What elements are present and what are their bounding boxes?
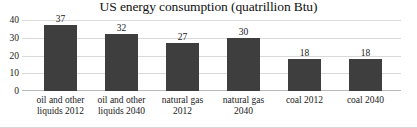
x-axis-category-label: oil and other liquids 2040 xyxy=(91,95,152,117)
bar-value-label: 18 xyxy=(335,48,396,58)
bar-chart: US energy consumption (quatrillion Btu) … xyxy=(0,0,417,128)
bar-group: 32 xyxy=(91,20,152,91)
x-axis-category-label: natural gas 2040 xyxy=(213,95,274,117)
bar[interactable] xyxy=(288,59,321,91)
bar-group: 30 xyxy=(213,20,274,91)
y-axis-tick-label: 30 xyxy=(0,33,19,43)
bar-value-label: 32 xyxy=(91,23,152,33)
y-axis: 40 30 20 10 0 xyxy=(0,20,19,91)
y-axis-tick-label: 20 xyxy=(0,51,19,61)
chart-title: US energy consumption (quatrillion Btu) xyxy=(0,0,417,14)
x-axis-category-labels: oil and other liquids 2012 oil and other… xyxy=(22,95,401,125)
bar-group: 27 xyxy=(152,20,213,91)
bar-value-label: 37 xyxy=(30,14,91,24)
bar[interactable] xyxy=(105,34,138,91)
bar-group: 18 xyxy=(274,20,335,91)
y-axis-tick-label: 40 xyxy=(0,15,19,25)
y-axis-tick-label: 0 xyxy=(0,86,19,96)
x-axis-category-label: oil and other liquids 2012 xyxy=(30,95,91,117)
x-axis-category-label: natural gas 2012 xyxy=(152,95,213,117)
bar[interactable] xyxy=(166,43,199,91)
bar[interactable] xyxy=(44,25,77,91)
x-axis-category-label: coal 2040 xyxy=(335,95,396,106)
bar[interactable] xyxy=(227,38,260,91)
bar-value-label: 30 xyxy=(213,27,274,37)
bar-value-label: 27 xyxy=(152,32,213,42)
x-axis-category-label: coal 2012 xyxy=(274,95,335,106)
bar[interactable] xyxy=(349,59,382,91)
bar-value-label: 18 xyxy=(274,48,335,58)
y-axis-tick-label: 10 xyxy=(0,68,19,78)
plot-area: 37 32 27 30 18 18 xyxy=(22,20,401,91)
bar-group: 18 xyxy=(335,20,396,91)
bar-group: 37 xyxy=(30,20,91,91)
